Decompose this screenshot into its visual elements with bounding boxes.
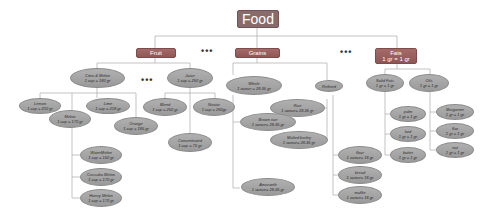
node-blend: Blend1 cup = 250 gr [143, 98, 187, 116]
node-margarine: Margarine1 gr = 1 gr [436, 104, 474, 120]
node-value: 1 gr = 1 gr [420, 83, 438, 88]
node-value: 1 cup = 250 gr [152, 107, 178, 112]
node-nut: nut1 gr = 1 gr [436, 142, 474, 158]
node-concentrated: Concentrated1 cup = 70 gr [168, 133, 212, 152]
node-nectar: Nectar1 cup = 250gr [193, 98, 235, 116]
node-solid-fats: Solid Fats1 gr = 1 gr [366, 74, 404, 92]
node-butter: butter1 gr = 1 gr [390, 147, 426, 163]
node-value: 1 ounce= 28.35 gr [252, 122, 284, 127]
node-value: 1 gr = 1 gr [446, 150, 464, 155]
node-flour: flour1 ounce= 16 gr [338, 146, 382, 164]
node-value: 1 ounce= 28.35 gr [283, 140, 315, 145]
node-value: 1 gr = 1 gr [376, 83, 394, 88]
node-muffin: muffin1 ounce= 16 gr [338, 186, 382, 204]
node-value: 1 gr = 1 gr [446, 131, 464, 136]
node-value: 1 gr = 1 gr [399, 114, 417, 119]
ellipsis-more-categories-left: ••• [201, 46, 213, 56]
category-label: Grains [249, 50, 267, 56]
node-value: 1 cup = 170 gr [57, 119, 83, 124]
category-label: Fruit [150, 50, 162, 56]
category-node-grains: Grains [235, 48, 280, 58]
node-oils: Oils1 gr = 1 gr [409, 74, 449, 92]
node-value: 1 ounce= 16 gr [347, 155, 374, 160]
node-value: 1 cup = 250gr [202, 107, 227, 112]
node-flax: flax1 gr = 1 gr [436, 123, 474, 139]
node-value: 1 ounce= 16 gr [347, 175, 374, 180]
category-node-fats: Fats 1 gr = 1 gr [375, 48, 417, 64]
node-brown-rice: Brown rice1 ounce= 28.35 gr [240, 113, 296, 131]
node-palm: palm1 gr = 1 gr [390, 106, 426, 122]
node-whole: Whole1 ounce = 28.35 gr [226, 76, 282, 95]
category-node-fruit: Fruit [136, 48, 176, 58]
node-lime: Lime1 cup = 218 gr [86, 98, 130, 114]
node-value: 1 cup = 170 gr [88, 177, 114, 182]
node-value: 1 cup = 210 gr [27, 106, 53, 111]
node-amaranth: Amaranth1 ounce= 28.35 gr [241, 178, 295, 196]
node-cassaba-melon: Cassaba Melon1 cup = 170 gr [80, 168, 122, 186]
node-value: 1 cup = 218 gr [95, 106, 121, 111]
node-value: 1 gr = 1 gr [399, 134, 417, 139]
node-value: 1 cup = 170 gr [88, 198, 114, 203]
node-value: 1 gr = 1 gr [399, 155, 417, 160]
node-value: 1 cup = 250 gr [177, 78, 203, 83]
node-value: 1 cup = 185 gr [123, 126, 149, 131]
node-juice: Juice1 cup = 250 gr [167, 68, 213, 88]
node-name: Refined [322, 84, 336, 89]
root-node-food: Food [237, 10, 279, 28]
node-melon: Melon1 cup = 170 gr [49, 110, 91, 128]
node-value: 1 cup = 180 gr [85, 78, 111, 83]
node-citric-melon: Citric & Melon1 cup = 180 gr [70, 68, 125, 88]
node-bread: bread1 ounce= 16 gr [338, 166, 382, 184]
node-value: 1 ounce= 28.35 gr [281, 108, 313, 113]
node-orange: Orange1 cup = 185 gr [114, 117, 158, 135]
node-watermelon: WaterMelon1 cup = 150 gr [80, 146, 122, 164]
food-hierarchy-diagram: Food Fruit Grains Fats 1 gr = 1 gr ••• •… [0, 0, 490, 214]
node-refined: Refined [315, 80, 343, 92]
node-honey-melon: Honey Melon1 cup = 170 gr [80, 189, 122, 207]
node-lard: lard1 gr = 1 gr [390, 126, 426, 142]
node-value: 1 ounce= 16 gr [347, 195, 374, 200]
node-malted-barley: Malted barley1 ounce= 28.35 gr [270, 131, 328, 149]
ellipsis-more-categories-right: ••• [340, 47, 352, 57]
node-value: 1 cup = 70 gr [178, 143, 201, 148]
node-value: 1 gr = 1 gr [446, 112, 464, 117]
node-value: 1 ounce = 28.35 gr [237, 86, 270, 91]
root-label: Food [242, 11, 274, 27]
category-sublabel: 1 gr = 1 gr [382, 56, 410, 62]
ellipsis-more-fruit: ••• [141, 75, 153, 85]
node-value: 1 cup = 150 gr [88, 155, 114, 160]
node-value: 1 ounce= 28.35 gr [252, 187, 284, 192]
